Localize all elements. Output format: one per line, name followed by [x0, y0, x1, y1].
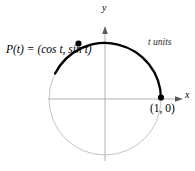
- label-point-one-zero: (1, 0): [150, 103, 175, 115]
- x-axis-arrow-icon: [175, 96, 183, 102]
- label-point-definition-text: P(t) = (cos t, sin t): [6, 43, 92, 55]
- point-marker-one-zero: [158, 94, 164, 100]
- label-axis-y: y: [102, 3, 106, 13]
- label-arc-length: t units: [148, 38, 172, 48]
- label-axis-x: x: [185, 90, 189, 100]
- unit-circle-figure: P(t) = (cos t, sin t) t units y x (1, 0): [0, 0, 195, 171]
- label-point-definition: P(t) = (cos t, sin t): [6, 44, 92, 56]
- figure-canvas: [0, 0, 195, 171]
- y-axis-arrow-icon: [102, 26, 108, 34]
